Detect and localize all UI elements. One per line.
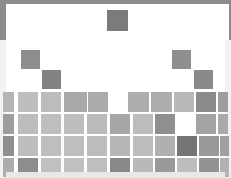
cell-r5-c7 <box>155 136 175 156</box>
cell-r5-c2 <box>41 136 61 156</box>
cell-r5-c10 <box>220 136 229 156</box>
cell-r3-c9 <box>196 92 216 112</box>
cell-r2-c10 <box>194 70 213 89</box>
figure-container <box>0 0 231 178</box>
cell-r2-c2 <box>42 70 61 89</box>
heatmap-plot-area <box>0 0 231 178</box>
cell-r3-c7 <box>151 92 172 112</box>
cell-r5-c9 <box>199 136 219 156</box>
cell-r4-c4 <box>87 114 107 134</box>
cell-r5-c0 <box>3 136 14 156</box>
cell-r1-c1 <box>21 50 40 69</box>
cell-r4-c9 <box>196 114 216 134</box>
cell-r4-c5 <box>110 114 130 134</box>
cell-r4-c10 <box>218 114 228 134</box>
cell-r5-c8 <box>177 136 197 156</box>
cell-r4-c3 <box>64 114 84 134</box>
cell-r3-c6 <box>128 92 149 112</box>
cell-r3-c2 <box>41 92 61 112</box>
cell-r5-c1 <box>18 136 38 156</box>
cell-r1-c9 <box>172 50 191 69</box>
cell-r3-c10 <box>218 92 228 112</box>
cell-r3-c3 <box>64 92 87 112</box>
cell-r0-c5 <box>107 10 128 31</box>
cell-r3-c8 <box>174 92 194 112</box>
cell-r4-c6 <box>133 114 153 134</box>
panel-edge-bottom <box>6 172 225 178</box>
cell-r4-c7 <box>155 114 175 134</box>
cell-r3-c1 <box>18 92 38 112</box>
cell-r5-c6 <box>133 136 153 156</box>
cell-r3-c4 <box>88 92 108 112</box>
cell-r5-c3 <box>64 136 84 156</box>
cell-r4-c1 <box>18 114 38 134</box>
cell-r5-c5 <box>110 136 130 156</box>
cell-r4-c2 <box>41 114 61 134</box>
cell-r5-c4 <box>87 136 107 156</box>
cell-r4-c0 <box>3 114 14 134</box>
cell-r3-c0 <box>3 92 14 112</box>
